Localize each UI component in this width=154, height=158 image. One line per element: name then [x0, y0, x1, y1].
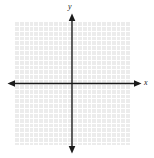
y-axis-label: y [68, 3, 72, 11]
x-axis-left-arrowhead [8, 80, 16, 87]
y-axis-bottom-arrowhead [69, 146, 76, 154]
axes-layer [0, 0, 154, 158]
coordinate-plane-figure: y x [0, 0, 154, 158]
y-axis-top-arrowhead [69, 14, 76, 22]
x-axis-label: x [144, 79, 148, 87]
x-axis-right-arrowhead [134, 80, 142, 87]
